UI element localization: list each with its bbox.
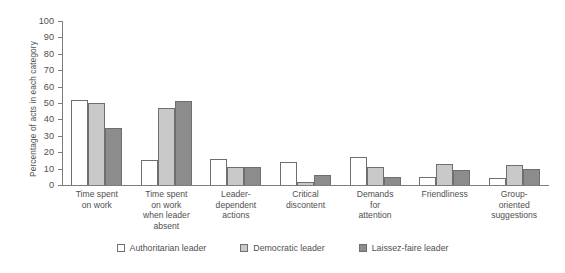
legend-swatch-icon: [117, 244, 125, 252]
y-tick-label: 70: [44, 65, 54, 75]
y-tick-mark: [58, 70, 62, 71]
bar: [175, 101, 192, 185]
bar: [453, 170, 470, 185]
y-tick-label: 10: [44, 164, 54, 174]
legend-item[interactable]: Authoritarian leader: [117, 243, 207, 253]
bar-group: [479, 165, 549, 185]
plot-area: 1009080706050403020100: [62, 21, 549, 185]
bar-group: [201, 159, 271, 185]
bar: [523, 169, 540, 185]
bar-group: [410, 164, 480, 185]
chart-legend: Authoritarian leaderDemocratic leaderLai…: [0, 243, 565, 253]
y-tick-mark: [58, 21, 62, 22]
x-axis-line: [62, 185, 549, 186]
bar: [227, 167, 244, 185]
y-tick-mark: [58, 185, 62, 186]
bar: [384, 177, 401, 185]
legend-label: Authoritarian leader: [130, 243, 207, 253]
y-tick-label: 0: [49, 180, 54, 190]
bar-group: [132, 101, 202, 185]
y-tick-label: 80: [44, 49, 54, 59]
y-tick-label: 90: [44, 32, 54, 42]
bar: [244, 167, 261, 185]
bar: [105, 128, 122, 185]
x-category-label: Leader- dependent actions: [201, 189, 271, 221]
y-tick-label: 20: [44, 147, 54, 157]
x-category-label: Critical discontent: [271, 189, 341, 210]
y-tick-mark: [58, 54, 62, 55]
x-category-label: Friendliness: [410, 189, 480, 200]
x-category-label: Time spent on work when leader absent: [132, 189, 202, 231]
bar: [297, 182, 314, 185]
bar-group: [340, 157, 410, 185]
legend-label: Laissez-faire leader: [372, 243, 449, 253]
legend-label: Democratic leader: [253, 243, 324, 253]
y-tick-label: 50: [44, 98, 54, 108]
x-category-label: Group- oriented suggestions: [479, 189, 549, 221]
y-tick-mark: [58, 37, 62, 38]
bar: [419, 177, 436, 185]
bar: [71, 100, 88, 185]
legend-swatch-icon: [240, 244, 248, 252]
bar: [158, 108, 175, 185]
bar: [141, 160, 158, 185]
bar-group: [271, 162, 341, 185]
y-tick-mark: [58, 87, 62, 88]
legend-swatch-icon: [359, 244, 367, 252]
y-tick-label: 30: [44, 131, 54, 141]
x-category-label: Time spent on work: [62, 189, 132, 210]
y-tick-label: 60: [44, 82, 54, 92]
bar-chart: Percentage of acts in each category 1009…: [0, 0, 565, 273]
y-axis-title: Percentage of acts in each category: [28, 14, 38, 204]
bar: [88, 103, 105, 185]
bar: [350, 157, 367, 185]
bar: [489, 178, 506, 185]
x-category-label: Demands for attention: [340, 189, 410, 221]
y-tick-label: 40: [44, 114, 54, 124]
bar: [280, 162, 297, 185]
legend-item[interactable]: Democratic leader: [240, 243, 324, 253]
bar: [210, 159, 227, 185]
legend-item[interactable]: Laissez-faire leader: [359, 243, 449, 253]
bar: [436, 164, 453, 185]
y-tick-label: 100: [39, 16, 54, 26]
bar: [314, 175, 331, 185]
bar-group: [62, 100, 132, 185]
bar: [506, 165, 523, 185]
bar: [367, 167, 384, 185]
